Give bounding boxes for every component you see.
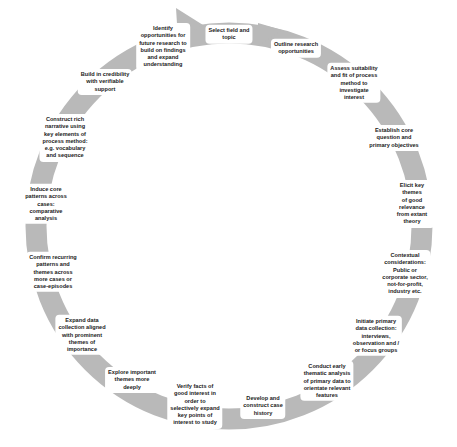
cycle-step-12: Expand data collection aligned with prom… [55,315,108,355]
cycle-step-6: Contextual considerations: Public or cor… [379,250,430,298]
cycle-step-5: Elicit key themes of good relevance from… [390,180,435,228]
cycle-step-9: Develop and construct case history [240,393,285,419]
cycle-step-7: Initiate primary data collection: interv… [350,316,402,356]
cycle-step-10: Verify facts of good interest in order t… [167,381,222,429]
cycle-step-14: Induce core patterns across cases: compa… [22,184,70,224]
research-process-cycle-diagram: Select field and topicOutline research o… [0,0,457,447]
circular-arrow-ring [0,0,457,447]
cycle-step-16: Build in credibility with verifiable sup… [78,69,132,95]
cycle-step-13: Confirm recurring patterns and themes ac… [26,252,80,292]
cycle-step-8: Conduct early thematic analysis of prima… [300,361,353,401]
cycle-step-15: Construct rich narrative using key eleme… [39,114,90,162]
cycle-step-11: Explore important themes more deeply [105,367,159,393]
cycle-step-4: Establish core question and primary obje… [366,125,421,151]
cycle-step-2: Outline research opportunities [271,39,321,58]
cycle-step-17: Identify opportunities for future resear… [136,23,190,71]
cycle-step-3: Assess suitability and fit of process me… [327,63,380,103]
cycle-step-1: Select field and topic [205,25,252,44]
